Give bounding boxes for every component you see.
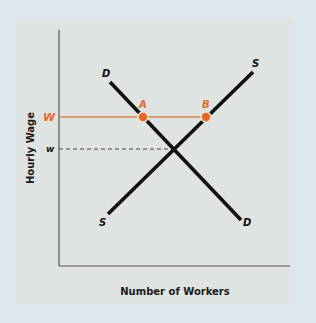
point-a-label: A <box>138 99 147 110</box>
supply-label-top: S <box>252 58 259 69</box>
supply-label-bottom: S <box>99 217 106 228</box>
point-b-marker <box>201 112 211 122</box>
high-wage-tick-label: W <box>43 111 56 124</box>
supply-curve <box>108 72 253 214</box>
demand-label-bottom: D <box>243 217 251 228</box>
point-b-label: B <box>202 99 210 110</box>
point-a-marker <box>138 112 148 122</box>
demand-label-top: D <box>102 68 110 79</box>
y-axis-title: Hourly Wage <box>25 112 36 184</box>
x-axis-title: Number of Workers <box>120 286 230 297</box>
equilibrium-wage-tick-label: w <box>46 144 55 154</box>
supply-demand-diagram: D D S S A B W w Hourly Wage Number of Wo… <box>0 0 316 323</box>
